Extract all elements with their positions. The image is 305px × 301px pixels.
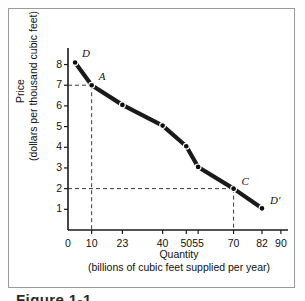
data-point-1 — [89, 82, 95, 88]
x-axis-title: Quantity (billions of cubic feet supplie… — [68, 248, 290, 274]
point-label-C: C — [242, 175, 249, 187]
y-tick-label-7: 7 — [46, 78, 62, 90]
data-point-0 — [72, 60, 78, 66]
y-tick-label-8: 8 — [46, 58, 62, 70]
y-axis-title: Price (dollars per thousand cubic feet) — [14, 21, 40, 161]
figure-root: 1234567801023405055708290DACD′ Price (do… — [0, 0, 305, 301]
x-axis-title-main: Quantity — [68, 248, 290, 261]
point-label-Dprime: D′ — [270, 194, 280, 206]
y-tick-label-5: 5 — [46, 120, 62, 132]
data-point-5 — [195, 164, 201, 170]
point-label-D: D — [82, 47, 90, 59]
y-axis-title-main: Price — [14, 21, 27, 161]
figure-caption: Figure 1-1 — [16, 292, 92, 301]
data-point-3 — [160, 123, 166, 129]
x-axis-title-sub: (billions of cubic feet supplied per yea… — [68, 261, 290, 274]
axes-group — [64, 48, 288, 234]
data-point-4 — [183, 143, 189, 149]
point-label-A: A — [99, 70, 106, 82]
y-tick-label-3: 3 — [46, 161, 62, 173]
data-point-7 — [259, 205, 265, 211]
y-tick-label-6: 6 — [46, 99, 62, 111]
y-tick-label-4: 4 — [46, 140, 62, 152]
y-tick-label-1: 1 — [46, 202, 62, 214]
guide-lines-group — [68, 85, 234, 230]
data-point-6 — [231, 186, 237, 192]
y-axis-title-sub: (dollars per thousand cubic feet) — [27, 21, 40, 161]
y-tick-label-2: 2 — [46, 182, 62, 194]
data-point-2 — [120, 102, 126, 108]
